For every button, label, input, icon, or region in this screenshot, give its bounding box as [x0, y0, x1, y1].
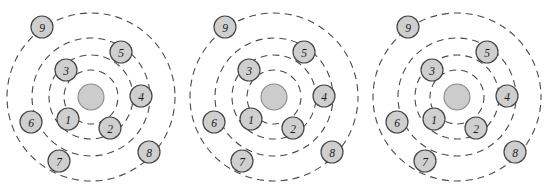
- node-1[interactable]: 1: [240, 108, 262, 130]
- node-9-label: 9: [405, 22, 411, 34]
- node-4[interactable]: 4: [313, 85, 335, 107]
- node-3[interactable]: 3: [55, 59, 77, 81]
- node-5[interactable]: 5: [293, 41, 315, 63]
- node-6[interactable]: 6: [20, 111, 42, 133]
- node-1-label: 1: [248, 114, 254, 126]
- left-panel: 123456789: [7, 13, 175, 181]
- node-8[interactable]: 8: [138, 141, 160, 163]
- node-4[interactable]: 4: [130, 85, 152, 107]
- node-2[interactable]: 2: [99, 117, 121, 139]
- node-3-label: 3: [428, 65, 435, 77]
- node-8-label: 8: [329, 147, 335, 159]
- node-1-label: 1: [431, 114, 437, 126]
- right-panel: 123456789: [373, 13, 541, 181]
- node-2-label: 2: [290, 123, 296, 135]
- node-1-label: 1: [65, 114, 71, 126]
- node-3-label: 3: [62, 65, 69, 77]
- orbit-diagram-figure: 123456789123456789123456789: [0, 0, 549, 190]
- node-9-label: 9: [222, 22, 228, 34]
- node-6[interactable]: 6: [386, 111, 408, 133]
- node-6[interactable]: 6: [203, 111, 225, 133]
- node-3[interactable]: 3: [421, 59, 443, 81]
- node-4-label: 4: [138, 91, 144, 103]
- node-5[interactable]: 5: [476, 41, 498, 63]
- node-1[interactable]: 1: [423, 108, 445, 130]
- node-8-label: 8: [512, 147, 518, 159]
- node-6-label: 6: [28, 117, 34, 129]
- node-4[interactable]: 4: [496, 85, 518, 107]
- middle-panel: 123456789: [190, 13, 358, 181]
- node-9[interactable]: 9: [397, 16, 419, 38]
- node-1[interactable]: 1: [57, 108, 79, 130]
- node-7[interactable]: 7: [48, 150, 70, 172]
- node-2-label: 2: [473, 123, 479, 135]
- node-7[interactable]: 7: [414, 150, 436, 172]
- hub-node[interactable]: [78, 84, 104, 110]
- node-5-label: 5: [118, 47, 124, 59]
- hub-node[interactable]: [444, 84, 470, 110]
- node-3-label: 3: [245, 65, 252, 77]
- node-6-label: 6: [394, 117, 400, 129]
- node-5[interactable]: 5: [110, 41, 132, 63]
- node-7[interactable]: 7: [231, 150, 253, 172]
- node-5-label: 5: [301, 47, 307, 59]
- node-8[interactable]: 8: [504, 141, 526, 163]
- node-6-label: 6: [211, 117, 217, 129]
- node-5-label: 5: [484, 47, 490, 59]
- node-2[interactable]: 2: [282, 117, 304, 139]
- node-2-label: 2: [107, 123, 113, 135]
- diagram-canvas: 123456789123456789123456789: [0, 0, 549, 190]
- node-8[interactable]: 8: [321, 141, 343, 163]
- hub-node[interactable]: [261, 84, 287, 110]
- node-9[interactable]: 9: [214, 16, 236, 38]
- node-9-label: 9: [39, 22, 45, 34]
- node-8-label: 8: [146, 147, 152, 159]
- node-9[interactable]: 9: [31, 16, 53, 38]
- node-4-label: 4: [504, 91, 510, 103]
- node-4-label: 4: [321, 91, 327, 103]
- node-2[interactable]: 2: [465, 117, 487, 139]
- node-3[interactable]: 3: [238, 59, 260, 81]
